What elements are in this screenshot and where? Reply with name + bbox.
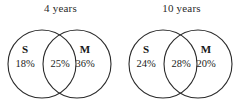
percent-s-only-left: 18%	[8, 58, 42, 70]
percent-m-only-right: 20%	[189, 58, 223, 70]
set-label-s-left: S	[14, 43, 36, 55]
set-label-m-left: M	[74, 43, 96, 55]
set-label-m-right: M	[195, 43, 217, 55]
venn-panel-10-years: 10 years S M 24% 28% 20%	[121, 0, 242, 107]
set-label-s-right: S	[135, 43, 157, 55]
panel-title-right: 10 years	[121, 1, 242, 15]
percent-m-only-left: 36%	[68, 58, 102, 70]
venn-diagram-figure: 4 years S M 18% 25% 36% 10 years S M 24%…	[0, 0, 242, 107]
panel-title-left: 4 years	[0, 1, 121, 15]
venn-panel-4-years: 4 years S M 18% 25% 36%	[0, 0, 121, 107]
percent-s-only-right: 24%	[129, 58, 163, 70]
